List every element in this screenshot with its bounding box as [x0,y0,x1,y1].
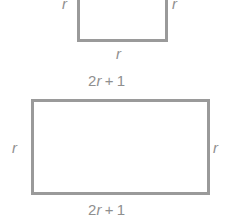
rectangle-label-right-text: r [213,139,218,156]
rectangle-label-bottom-constant: 1 [117,201,126,218]
rectangle-label-left-text: r [12,139,17,156]
rectangle-label-right: r [213,140,218,155]
rectangle-label-bottom-operator: + [102,201,117,218]
square-label-bottom-text: r [116,45,121,62]
square-label-left-text: r [62,0,67,12]
rectangle-label-top: 2r+1 [88,73,125,88]
square-label-right: r [172,0,177,11]
rectangle-label-top-coefficient: 2 [88,72,97,89]
figure-canvas: r r r 2r+1 r r 2r+1 [0,0,228,223]
rectangle-label-bottom-coefficient: 2 [88,201,97,218]
rectangle-label-top-constant: 1 [117,72,126,89]
rectangle-label-top-variable: r [97,72,102,89]
rectangle-label-left: r [12,140,17,155]
rectangle-label-bottom-variable: r [97,201,102,218]
square-shape [77,0,168,42]
rectangle-shape [31,99,210,195]
rectangle-label-bottom: 2r+1 [88,202,125,217]
square-label-left: r [62,0,67,11]
square-label-bottom: r [116,46,121,61]
rectangle-label-top-operator: + [102,72,117,89]
square-label-right-text: r [172,0,177,12]
